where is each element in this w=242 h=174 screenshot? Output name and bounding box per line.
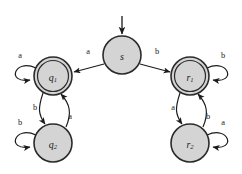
automaton-diagram: a b a b a b b xyxy=(0,0,242,174)
edge-q2-to-q1-path xyxy=(61,94,69,127)
edge-label-q2-self-loop: b xyxy=(18,118,22,127)
edge-label-s-to-r1: b xyxy=(155,47,159,56)
edge-r1-self-loop-path xyxy=(207,66,228,81)
state-r1-label-sub: 1 xyxy=(190,76,193,83)
state-r1[interactable]: r1 xyxy=(171,57,209,95)
edge-q1-self-loop-path xyxy=(15,66,36,81)
state-q1[interactable]: q1 xyxy=(34,57,72,95)
edge-label-r1-self-loop: b xyxy=(221,51,225,60)
edge-r1-to-r2-path xyxy=(176,93,182,124)
edge-label-q1-self-loop: a xyxy=(18,51,22,60)
state-s[interactable]: s xyxy=(103,36,141,74)
edge-r2-to-r1: b xyxy=(198,94,210,127)
edge-q2-to-q1: a xyxy=(61,94,72,127)
state-q1-label-sub: 1 xyxy=(54,76,57,83)
state-q2[interactable]: q2 xyxy=(34,124,72,162)
edge-label-s-to-q1: a xyxy=(86,47,90,56)
state-s-label: s xyxy=(120,51,124,62)
edge-s-to-r1: b xyxy=(140,47,170,73)
state-r2[interactable]: r2 xyxy=(171,124,209,162)
edge-q2-self-loop: b xyxy=(15,118,36,148)
edge-label-q2-to-q1: a xyxy=(68,112,72,121)
edge-q1-to-q2: b xyxy=(33,93,45,124)
edge-label-r2-to-r1: b xyxy=(206,112,210,121)
state-s-label-base: s xyxy=(120,51,124,62)
edge-q1-to-q2-path xyxy=(39,93,45,124)
edge-label-q1-to-q2: b xyxy=(33,103,37,112)
edge-label-r1-to-r2: a xyxy=(171,103,175,112)
edge-q2-self-loop-path xyxy=(15,133,36,148)
automaton-canvas: a b a b a b b xyxy=(0,0,242,174)
edge-s-to-q1-path xyxy=(74,64,104,72)
edge-s-to-q1: a xyxy=(74,47,104,73)
edge-q1-self-loop: a xyxy=(15,51,36,81)
edge-r2-to-r1-path xyxy=(198,94,206,127)
edge-r1-self-loop: b xyxy=(207,51,228,81)
edge-r1-to-r2: a xyxy=(171,93,182,124)
edge-r2-self-loop-path xyxy=(207,133,228,148)
edge-s-to-r1-path xyxy=(140,64,170,72)
edge-r2-self-loop: a xyxy=(207,118,228,148)
edge-label-r2-self-loop: a xyxy=(221,118,225,127)
